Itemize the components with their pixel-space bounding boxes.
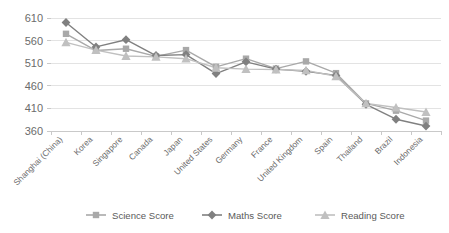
series-markers (61, 18, 430, 130)
series-data-point (63, 31, 69, 37)
x-axis-category-label: Canada (127, 134, 155, 162)
y-axis-tick-marks (47, 18, 51, 131)
x-axis-category-label: Thailand (335, 134, 365, 164)
legend-item-label: Reading Score (341, 210, 404, 221)
legend-item-label: Maths Score (228, 210, 282, 221)
x-axis-category-labels: Shanghai (China)KoreaSingaporeCanadaJapa… (11, 134, 424, 188)
series-data-point (122, 35, 131, 44)
x-axis-category-label: France (249, 134, 275, 160)
x-axis-category-label: Spain (312, 134, 334, 156)
x-axis-tick-marks (51, 131, 441, 135)
chart-legend: Science ScoreMaths ScoreReading Score (86, 210, 404, 221)
x-axis-category-label: Singapore (90, 134, 124, 168)
series-lines (66, 23, 426, 127)
x-axis-category-label: Shanghai (China) (11, 134, 64, 187)
series-data-point (392, 115, 401, 124)
y-axis-tick-label: 360 (25, 125, 43, 137)
series-data-point (123, 46, 129, 52)
y-axis-tick-label: 410 (25, 102, 43, 114)
legend-item-label: Science Score (112, 210, 174, 221)
series-data-point (61, 38, 70, 47)
pisa-scores-line-chart: 360410460510560610 Shanghai (China)Korea… (0, 0, 449, 233)
series-line (66, 23, 426, 127)
x-axis-category-label: Japan (161, 134, 184, 157)
x-axis-category-label: Brazil (373, 134, 395, 156)
y-axis-tick-label: 510 (25, 57, 43, 69)
x-axis-category-label: Korea (72, 134, 95, 157)
y-axis-tick-label: 460 (25, 80, 43, 92)
series-line (66, 42, 426, 112)
legend-marker-icon (208, 211, 217, 220)
series-data-point (303, 58, 309, 64)
y-axis-tick-label: 560 (25, 35, 43, 47)
y-axis-tick-label: 610 (25, 12, 43, 24)
y-axis-tick-labels: 360410460510560610 (25, 12, 43, 137)
x-axis-category-label: Indonesia (392, 134, 425, 167)
x-axis-category-label: Germany (213, 134, 245, 166)
legend-marker-icon (93, 212, 99, 218)
chart-canvas: 360410460510560610 Shanghai (China)Korea… (0, 0, 449, 233)
